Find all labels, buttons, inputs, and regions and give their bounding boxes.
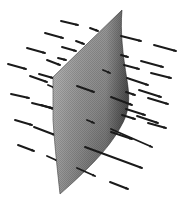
vector-arrow xyxy=(34,127,55,135)
vector-arrow xyxy=(148,98,168,104)
vector-arrow xyxy=(61,21,78,25)
vector-arrow xyxy=(141,61,163,67)
vector-arrow xyxy=(30,76,47,82)
vector-arrow xyxy=(11,94,29,98)
vector-arrow xyxy=(121,36,141,41)
vector-arrow xyxy=(110,182,128,189)
vector-arrow xyxy=(154,45,176,51)
vector-arrow xyxy=(137,116,158,123)
vector-arrow xyxy=(127,78,148,85)
vector-arrow xyxy=(15,120,32,125)
vector-arrow xyxy=(139,90,161,97)
vector-arrow xyxy=(8,64,26,69)
vector-arrow xyxy=(148,123,166,128)
vector-arrow xyxy=(151,73,171,78)
vector-arrow xyxy=(126,109,145,115)
vector-arrow xyxy=(45,33,63,38)
vector-field-flux-diagram xyxy=(0,0,187,202)
curved-surface xyxy=(53,10,129,194)
diagram-canvas xyxy=(0,0,187,202)
vector-arrow xyxy=(27,48,45,53)
